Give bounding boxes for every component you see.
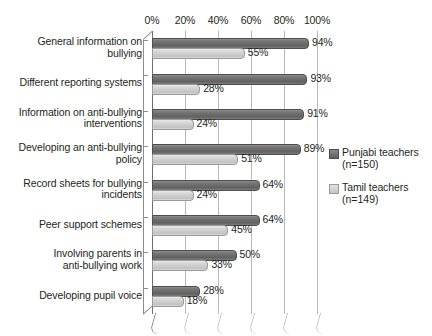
x-tick-label: 20% <box>175 14 195 26</box>
category-label: Peer support schemes <box>0 219 142 231</box>
category-label-line: bullying <box>0 48 142 60</box>
bar-tamil[interactable] <box>152 225 228 236</box>
gridline-floor-tail <box>215 313 236 334</box>
bar-tamil[interactable] <box>152 260 208 271</box>
bar-tamil[interactable] <box>152 119 194 130</box>
bar-tamil[interactable] <box>152 84 200 95</box>
bar-value-label: 64% <box>263 214 283 225</box>
legend-sublabel-tamil: (n=149) <box>342 193 429 205</box>
x-tick-label: 100% <box>304 14 330 26</box>
category-label-line: anti-bullying work <box>0 260 142 272</box>
bar-tamil[interactable] <box>152 48 245 59</box>
bar-value-label: 91% <box>307 108 327 119</box>
category-label-line: Different reporting systems <box>0 77 142 89</box>
category-label-line: Developing pupil voice <box>0 290 142 302</box>
x-tick-label: 60% <box>241 14 261 26</box>
chart-legend: Punjabi teachers (n=150) Tamil teachers … <box>329 146 429 216</box>
category-label: Developing pupil voice <box>0 290 142 302</box>
legend-label-punjabi: Punjabi teachers <box>342 146 429 158</box>
bar-value-label: 28% <box>203 83 223 94</box>
legend-label-tamil: Tamil teachers <box>342 181 429 193</box>
chart-row: Developing pupil voice28%18% <box>0 279 432 314</box>
bar-value-label: 51% <box>241 153 261 164</box>
category-label: Developing an anti-bullyingpolicy <box>0 142 142 165</box>
gridline-floor-tail <box>149 313 170 334</box>
bar-punjabi[interactable] <box>152 74 307 85</box>
bar-value-label: 64% <box>263 179 283 190</box>
gridline-floor-tail <box>182 313 203 334</box>
gridline-floor-tail <box>248 313 269 334</box>
chart-row: Involving parents inanti-bullying work50… <box>0 243 432 278</box>
category-label-line: Peer support schemes <box>0 219 142 231</box>
legend-entry-tamil[interactable]: Tamil teachers (n=149) <box>329 181 429 205</box>
legend-sublabel-punjabi: (n=150) <box>342 158 429 170</box>
bar-chart: 0%20%40%60%80%100% General information o… <box>0 0 432 336</box>
bar-value-label: 45% <box>231 224 251 235</box>
legend-swatch-icon-punjabi <box>329 149 339 159</box>
category-label-line: policy <box>0 154 142 166</box>
category-label: General information onbullying <box>0 36 142 59</box>
bar-tamil[interactable] <box>152 154 238 165</box>
category-label: Information on anti-bullyingintervention… <box>0 107 142 130</box>
category-label-line: incidents <box>0 189 142 201</box>
bar-value-label: 94% <box>312 37 332 48</box>
bar-value-label: 18% <box>187 295 207 306</box>
gridline-floor-tail <box>314 313 335 334</box>
x-axis-tick-labels: 0%20%40%60%80%100% <box>0 14 432 28</box>
chart-row: General information onbullying94%55% <box>0 31 432 66</box>
bar-value-label: 93% <box>310 73 330 84</box>
x-tick-label: 80% <box>274 14 294 26</box>
bar-value-label: 89% <box>304 143 324 154</box>
bar-value-label: 24% <box>197 189 217 200</box>
chart-row: Information on anti-bullyingintervention… <box>0 102 432 137</box>
gridline-floor-tail <box>281 313 302 334</box>
bar-value-label: 50% <box>240 249 260 260</box>
legend-swatch-icon-tamil <box>329 184 339 194</box>
category-label-line: interventions <box>0 118 142 130</box>
category-label: Record sheets for bullyingincidents <box>0 178 142 201</box>
legend-entry-punjabi[interactable]: Punjabi teachers (n=150) <box>329 146 429 170</box>
category-label: Involving parents inanti-bullying work <box>0 248 142 271</box>
bar-value-label: 33% <box>211 259 231 270</box>
bar-tamil[interactable] <box>152 296 184 307</box>
bar-tamil[interactable] <box>152 190 194 201</box>
bar-value-label: 55% <box>248 47 268 58</box>
x-tick-label: 0% <box>145 14 160 26</box>
x-tick-label: 40% <box>208 14 228 26</box>
chart-row: Different reporting systems93%28% <box>0 66 432 101</box>
bar-value-label: 24% <box>197 118 217 129</box>
category-label: Different reporting systems <box>0 77 142 89</box>
category-label-line: General information on <box>0 36 142 48</box>
